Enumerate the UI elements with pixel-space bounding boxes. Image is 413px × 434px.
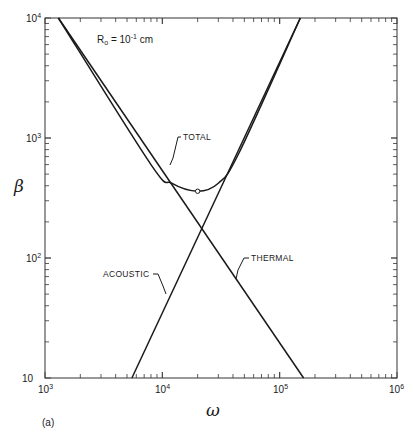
- thermal-label: THERMAL: [251, 253, 294, 263]
- chart: TOTAL THERMAL ACOUSTIC Ro = 10-1 cm 10 1…: [0, 0, 413, 434]
- thermal-leader: [236, 258, 249, 279]
- y-tick-label: 102: [26, 252, 41, 264]
- acoustic-leader: [153, 274, 166, 294]
- total-label: TOTAL: [183, 132, 211, 142]
- y-tick-label: 10: [22, 373, 34, 384]
- y-tick-label: 104: [26, 12, 41, 24]
- curves: [58, 18, 303, 378]
- panel-label: (a): [42, 417, 54, 428]
- thermal-line: [58, 18, 303, 378]
- x-tick-label: 106: [389, 383, 404, 395]
- x-axis-title: ω: [206, 400, 220, 420]
- radius-annotation: Ro = 10-1 cm: [97, 33, 153, 46]
- y-tick-label: 103: [26, 132, 41, 144]
- y-axis-title: β: [13, 176, 24, 196]
- total-leader: [170, 137, 181, 165]
- axis-ticks: [45, 18, 397, 378]
- minimum-marker: [195, 189, 199, 193]
- x-tick-label: 105: [273, 383, 288, 395]
- total-line: [58, 18, 300, 191]
- x-tick-label: 104: [155, 383, 170, 395]
- plot-frame: [45, 18, 397, 378]
- acoustic-label: ACOUSTIC: [103, 269, 149, 279]
- acoustic-line: [132, 18, 300, 378]
- x-tick-label: 103: [38, 383, 53, 395]
